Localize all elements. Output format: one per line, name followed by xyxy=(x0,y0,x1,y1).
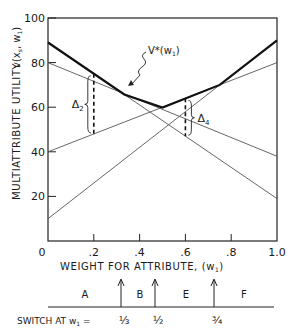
y-tick-label: 80 xyxy=(31,57,45,70)
y-tick-label: 60 xyxy=(31,101,45,114)
vstar-pointer xyxy=(131,52,146,85)
delta-label: Δ4 xyxy=(197,112,210,127)
y-tick-label: 100 xyxy=(24,12,45,25)
switch-value: ½ xyxy=(153,314,164,327)
region-label-B: B xyxy=(137,289,144,300)
x-tick-label: .2 xyxy=(89,246,100,259)
switch-label: SWITCH AT w1 = xyxy=(17,316,91,327)
y-tick-label: 40 xyxy=(31,146,45,159)
x-tick-label: .6 xyxy=(180,246,191,259)
switch-value: ¾ xyxy=(212,314,223,327)
x-tick-label: 1.0 xyxy=(268,246,286,259)
y-tick-label: 20 xyxy=(31,190,45,203)
x-tick-label: .4 xyxy=(134,246,145,259)
region-label-E: E xyxy=(183,289,189,300)
delta-label: Δ2 xyxy=(72,98,84,113)
y-axis-title: MULTIATTRIBUTE UTILITY xyxy=(11,62,22,200)
vstar-label: V*(w1) xyxy=(148,45,180,57)
switch-value: ⅓ xyxy=(119,314,130,327)
delta-brace xyxy=(85,76,91,133)
region-label-F: F xyxy=(241,289,247,300)
x-tick-label: .8 xyxy=(226,246,237,259)
region-label-A: A xyxy=(82,289,89,300)
y-axis-variable: v(xs, w1) xyxy=(11,27,23,68)
x-tick-label: 0 xyxy=(39,246,46,259)
x-axis-title: WEIGHT FOR ATTRIBUTE, (w1) xyxy=(60,261,224,273)
chart-root: 204060801000.2.4.6.81.0Δ2Δ4V*(w1)MULTIAT… xyxy=(0,0,293,333)
